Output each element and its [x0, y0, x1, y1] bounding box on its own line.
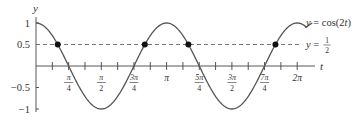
x-tick-label: 3π	[129, 73, 139, 82]
svg-text:4: 4	[197, 84, 201, 93]
svg-text:4: 4	[67, 84, 71, 93]
x-tick-label: π	[99, 73, 104, 82]
svg-text:2: 2	[325, 46, 329, 55]
svg-text:4: 4	[132, 84, 136, 93]
x-tick-label: π	[67, 73, 72, 82]
x-tick-label: 2π	[292, 73, 302, 83]
y-axis-label: y	[32, 2, 38, 14]
intersection-point	[185, 42, 191, 48]
curve-legend: y = cos(2t)	[305, 17, 352, 29]
y-tick-label: 0.5	[17, 39, 30, 50]
y-tick-label: −1	[19, 104, 30, 115]
x-tick-label: 7π	[261, 73, 270, 82]
axes	[36, 17, 315, 112]
intersection-point	[55, 42, 61, 48]
x-tick-label: 3π	[227, 73, 237, 82]
svg-text:2: 2	[99, 84, 103, 93]
x-tick-label: π	[164, 73, 169, 83]
x-axis-label: t	[320, 60, 324, 72]
svg-text:4: 4	[263, 84, 267, 93]
svg-text:2: 2	[230, 84, 234, 93]
cos-2t-chart: 10.5−0.5−1π4π23π4π5π43π27π42π y t y = co…	[0, 0, 362, 125]
intersection-point	[272, 42, 278, 48]
y-tick-label: 1	[25, 18, 30, 29]
intersection-point	[142, 42, 148, 48]
svg-text:y =: y =	[305, 39, 319, 50]
x-tick-label: 5π	[195, 73, 204, 82]
line-legend: y = 1 2	[305, 36, 331, 55]
svg-text:1: 1	[325, 36, 329, 45]
y-tick-label: −0.5	[11, 82, 30, 93]
